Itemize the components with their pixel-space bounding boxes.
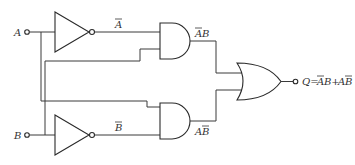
not-b-bubble-icon: [90, 133, 95, 138]
input-a-terminal: [25, 30, 30, 35]
and-top-label-b: B: [201, 28, 209, 39]
and-top-label-a: A: [194, 28, 202, 39]
not-b-label: B: [114, 122, 122, 133]
input-b-label: B: [13, 130, 21, 141]
output-term2-a: A: [337, 76, 345, 87]
not-b-triangle-icon: [55, 115, 89, 155]
and-bottom-label-b: B: [201, 126, 209, 137]
not-gate-b: [55, 115, 95, 155]
wire-and-top-out: [190, 41, 243, 73]
not-gate-a: [55, 12, 95, 52]
not-a-bubble-icon: [90, 30, 95, 35]
and-bottom-label-a: A: [194, 126, 202, 137]
output-term2-b: B: [344, 76, 352, 87]
and-gate-top-icon: [160, 23, 190, 59]
and-gate-bottom-icon: [160, 103, 190, 139]
input-a-label: A: [13, 27, 21, 38]
or-gate-icon: [237, 63, 281, 100]
output-q-terminal: [293, 79, 298, 84]
output-term1-a: A: [316, 76, 324, 87]
logic-circuit-diagram: A B A B A B A B Q= A B+ A B: [0, 0, 355, 165]
input-b-terminal: [25, 133, 30, 138]
not-a-label: A: [114, 19, 122, 30]
not-a-triangle-icon: [55, 12, 89, 52]
wire-and-bottom-out: [190, 90, 243, 121]
